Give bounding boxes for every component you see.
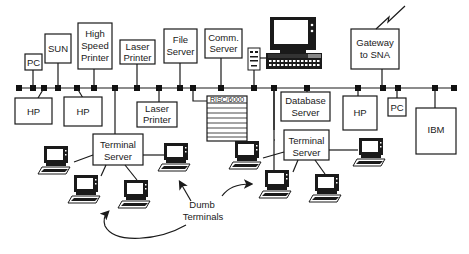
arrow-icon	[104, 212, 186, 238]
modem-icon	[248, 48, 260, 70]
risc-6000-device: RISC/6000	[193, 88, 247, 141]
terminal-icon	[68, 175, 100, 203]
sun-label: SUN	[48, 43, 68, 54]
terminal-icon	[229, 141, 261, 169]
gateway-label-2: to SNA	[360, 49, 391, 60]
laser-printer-top-label-1: Laser	[126, 41, 150, 52]
hp-3-label: HP	[353, 107, 366, 118]
annotation-label-2: Terminals	[183, 211, 224, 222]
comm-server-label-1: Comm.	[208, 32, 239, 43]
gateway-device: Gateway to SNA	[351, 6, 405, 88]
risc-label: RISC/6000	[210, 96, 244, 103]
workstation-device	[248, 17, 322, 88]
annotation-label-1: Dumb	[189, 199, 214, 210]
high-speed-printer-label-1: High	[85, 28, 105, 39]
high-speed-printer-label-2: Speed	[81, 40, 108, 51]
laser-printer-bottom-label-2: Printer	[143, 114, 171, 125]
laser-printer-bottom-label-1: Laser	[145, 103, 169, 114]
laser-printer-top-label-2: Printer	[124, 52, 152, 63]
terminal-icon	[309, 174, 341, 202]
database-server-label-1: Database	[285, 95, 326, 106]
network-diagram: PC SUN High Speed Printer Laser Printer …	[0, 0, 469, 254]
pc-left-device: PC	[25, 54, 42, 88]
database-server-label-2: Server	[292, 107, 320, 118]
hp-2-label: HP	[76, 106, 89, 117]
high-speed-printer-label-3: Printer	[81, 52, 109, 63]
hp-1-label: HP	[27, 106, 40, 117]
pc-left-label: PC	[27, 57, 40, 68]
laser-printer-bottom-device: Laser Printer	[137, 88, 177, 127]
high-speed-printer-device: High Speed Printer	[78, 23, 112, 88]
gateway-label-1: Gateway	[356, 37, 394, 48]
pc-right-device: PC	[388, 88, 406, 116]
terminal-icon	[38, 146, 70, 174]
computer-icon	[266, 17, 322, 69]
comm-server-label-2: Server	[210, 43, 238, 54]
wan-link-icon	[376, 6, 405, 29]
sun-device: SUN	[45, 34, 71, 88]
terminal-server-left-label-1: Terminal	[100, 139, 136, 150]
terminal-icon	[353, 138, 385, 166]
hp-1-device: HP	[15, 88, 52, 124]
database-server-device: Database Server	[281, 88, 330, 121]
terminal-icon	[259, 170, 291, 198]
arrow-icon	[222, 184, 251, 196]
file-server-label-1: File	[173, 34, 188, 45]
terminal-server-right-label-2: Server	[293, 147, 321, 158]
terminal-icon	[118, 180, 150, 208]
terminal-server-left-label-2: Server	[104, 151, 132, 162]
hp-3-device: HP	[343, 88, 377, 130]
ibm-device: IBM	[416, 88, 456, 154]
file-server-label-2: Server	[167, 46, 195, 57]
hp-2-device: HP	[64, 88, 102, 126]
arrow-icon	[180, 182, 191, 201]
ibm-label: IBM	[428, 124, 445, 135]
terminal-icon	[158, 143, 190, 171]
terminal-server-right-label-1: Terminal	[289, 135, 325, 146]
pc-right-label: PC	[390, 102, 403, 113]
comm-server-device: Comm. Server	[205, 29, 242, 88]
laser-printer-top-device: Laser Printer	[120, 40, 155, 88]
file-server-device: File Server	[164, 29, 197, 88]
